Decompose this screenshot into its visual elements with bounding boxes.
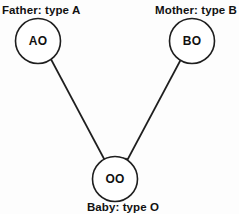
baby-caption: Baby: type O [87, 201, 159, 213]
baby-node[interactable]: OO [93, 157, 138, 202]
mother-genotype-label: BO [183, 34, 201, 48]
father-genotype-label: AO [29, 34, 47, 48]
mother-caption: Mother: type B [155, 4, 237, 16]
father-caption: Father: type A [2, 4, 80, 16]
mother-to-baby-edge [118, 48, 187, 170]
father-to-baby-edge [45, 48, 114, 170]
baby-genotype-label: OO [105, 172, 124, 186]
mother-node[interactable]: BO [170, 19, 215, 64]
diagram-canvas: Father: type A Mother: type B AO BO OO [0, 0, 239, 214]
inheritance-diagram: Father: type A Mother: type B AO BO OO [0, 0, 239, 214]
mother-to-baby-line [122, 48, 187, 170]
father-node[interactable]: AO [16, 19, 61, 64]
father-to-baby-line [45, 48, 110, 170]
